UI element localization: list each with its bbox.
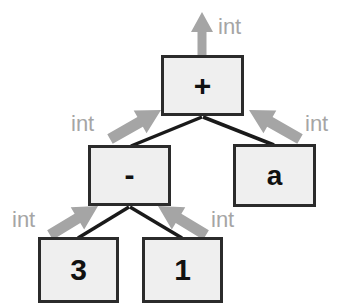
node-label-minus: - [125,160,135,190]
type-label-minus: int [71,113,94,135]
syntax-tree-diagram: + - a 3 1 int int int int int [0,0,346,308]
type-label-literal-1: int [211,209,234,231]
type-label-root: int [218,16,241,38]
arrow-type-3 [47,206,98,240]
node-label-literal-1: 1 [174,255,191,285]
arrow-type-root [191,12,213,55]
node-root-plus[interactable]: + [161,55,244,116]
node-label-root-plus: + [194,71,212,101]
type-label-literal-3: int [12,209,35,231]
node-identifier-a[interactable]: a [233,144,316,207]
node-literal-3[interactable]: 3 [38,237,119,303]
node-label-identifier-a: a [267,162,283,190]
node-literal-1[interactable]: 1 [142,237,223,303]
arrow-type-1 [158,206,209,240]
node-minus[interactable]: - [88,145,171,206]
node-label-literal-3: 3 [70,255,87,285]
type-label-identifier-a: int [305,113,328,135]
